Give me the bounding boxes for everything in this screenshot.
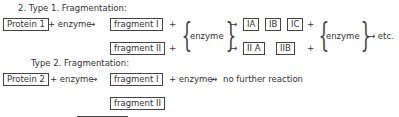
plus-enzyme-label: + enzyme (169, 74, 212, 85)
enzyme-label: enzyme (326, 31, 360, 42)
type2-heading: Type 2. Fragmentation: (31, 58, 129, 69)
plus-sign: + (307, 19, 314, 30)
fragment1-box: fragment I (110, 18, 163, 31)
enzyme-label: enzyme (190, 31, 224, 42)
subfragment-box: IA (243, 18, 259, 31)
result-label: no further reaction (223, 74, 303, 85)
plus-sign: + (307, 43, 314, 54)
reaction-arrow-icon: → (90, 74, 97, 85)
fragment2-box: fragment II (110, 42, 165, 55)
no-reaction-arrow-icon: ↛ (210, 74, 217, 85)
subfragment-box: IIB (276, 42, 295, 55)
plus-enzyme-label: + enzyme (48, 19, 91, 30)
protein2-box: Protein 2 (3, 73, 49, 86)
arrow-icon: → (230, 43, 237, 54)
plus-sign: + (169, 19, 176, 30)
arrow-icon: → (230, 19, 237, 30)
type1-heading: 2. Type 1. Fragmentation: (18, 3, 127, 14)
etc-label: → etc. (368, 31, 394, 42)
fragment2-box: fragment II (110, 97, 165, 110)
partial-box-edge (77, 116, 128, 117)
plus-enzyme-label: + enzyme (50, 74, 93, 85)
fragment1-box: fragment I (110, 73, 163, 86)
subfragment-box: IC (287, 18, 303, 31)
reaction-arrow-icon: → (88, 19, 95, 30)
subfragment-box: IB (265, 18, 281, 31)
subfragment-box: II A (243, 42, 265, 55)
protein1-box: Protein 1 (3, 18, 49, 31)
plus-sign: + (169, 43, 176, 54)
